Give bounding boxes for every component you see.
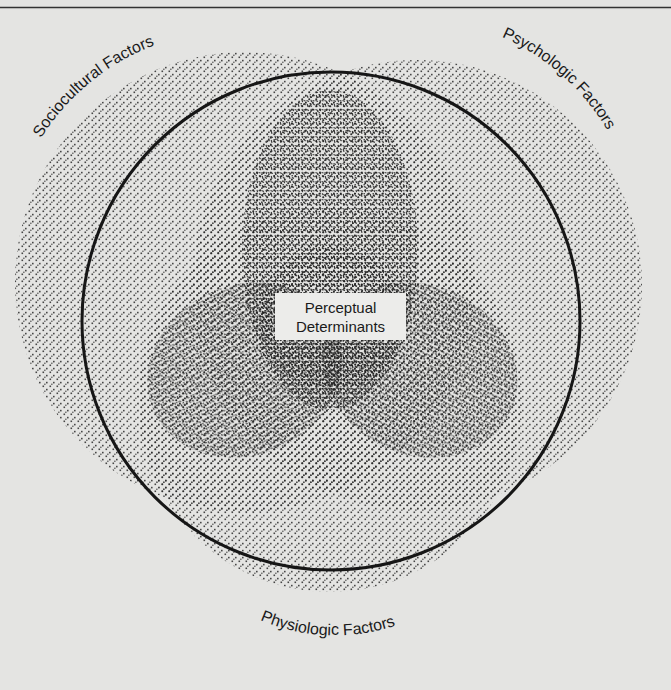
center-label-box: Perceptual Determinants bbox=[275, 293, 406, 340]
center-label-line2: Determinants bbox=[296, 317, 385, 336]
label-physiologic-factors: Physiologic Factors bbox=[259, 607, 397, 638]
diagram-canvas: Sociocultural Factors Psychologic Factor… bbox=[0, 0, 671, 690]
venn-diagram-figure: Sociocultural Factors Psychologic Factor… bbox=[0, 0, 671, 690]
center-label-line1: Perceptual bbox=[305, 298, 377, 317]
